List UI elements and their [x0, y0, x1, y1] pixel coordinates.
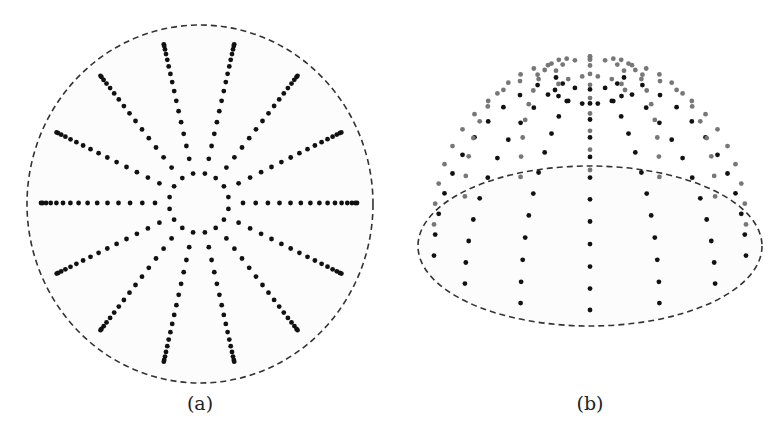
spoke-dot: [184, 144, 189, 149]
spoke-dot: [298, 201, 303, 206]
dome-front-dot: [588, 219, 593, 224]
spoke-dot: [39, 201, 44, 206]
dome-front-dot: [495, 156, 500, 161]
spoke-dot: [176, 292, 181, 297]
dome-back-dot: [554, 68, 559, 73]
spoke-dot: [168, 330, 173, 335]
dome-front-dot: [644, 105, 649, 110]
spoke-dot: [269, 165, 274, 170]
dome-back-dot: [495, 91, 500, 96]
spoke-dot: [225, 71, 230, 76]
dome-front-dot: [652, 235, 657, 240]
dome-point-distribution-figure: [0, 0, 779, 427]
spoke-dot: [305, 254, 310, 259]
dome-front-dot: [588, 155, 593, 160]
dome-back-dot: [649, 102, 654, 107]
panel-b-dome-view: [418, 54, 762, 326]
spoke-dot: [215, 120, 220, 125]
spoke-dot: [187, 245, 192, 250]
spoke-dot: [240, 145, 245, 150]
spoke-dot: [124, 165, 129, 170]
spoke-dot: [259, 231, 264, 236]
spoke-dot: [217, 292, 222, 297]
spoke-dot: [153, 201, 158, 206]
spoke-dot: [116, 304, 121, 309]
spoke-dot: [165, 344, 170, 349]
dome-front-dot: [603, 86, 608, 91]
dome-back-dot: [611, 56, 616, 61]
dome-back-dot: [486, 99, 491, 104]
dome-front-dot: [432, 253, 437, 258]
dome-back-dot: [535, 72, 540, 77]
dome-back-dot: [603, 58, 608, 63]
dome-back-dot: [450, 144, 455, 149]
dome-front-dot: [658, 93, 663, 98]
dome-back-dot: [739, 181, 744, 186]
dome-back-dot: [690, 104, 695, 109]
dome-back-dot: [588, 111, 593, 116]
spoke-dot: [61, 201, 66, 206]
dome-back-dot: [506, 80, 511, 85]
spoke-dot: [63, 134, 68, 139]
dome-front-dot: [588, 308, 593, 313]
spoke-dot: [63, 267, 68, 272]
dome-back-dot: [674, 88, 679, 93]
spoke-dot: [212, 131, 217, 136]
dome-back-dot: [712, 174, 717, 179]
spoke-dot: [166, 337, 171, 342]
dome-front-dot: [622, 75, 627, 80]
spoke-dot: [133, 283, 138, 288]
spoke-dot: [232, 359, 237, 364]
spoke-dot: [122, 104, 127, 109]
dome-back-dot: [703, 112, 708, 117]
dome-back-dot: [657, 154, 662, 159]
spoke-dot: [221, 89, 226, 94]
spoke-dot: [164, 52, 169, 57]
spoke-dot: [232, 155, 237, 160]
inner-ring-dot: [167, 195, 172, 200]
dome-front-dot: [588, 242, 593, 247]
spoke-dot: [297, 151, 302, 156]
spoke-dot: [154, 256, 159, 261]
spoke-dot: [236, 181, 241, 186]
spoke-dot: [236, 220, 241, 225]
dome-front-dot: [655, 257, 660, 262]
dome-front-dot: [536, 170, 541, 175]
spoke-dot: [127, 290, 132, 295]
dome-front-dot: [518, 120, 523, 125]
spoke-dot: [295, 73, 300, 78]
spoke-dot: [215, 281, 220, 286]
inner-ring-dot: [191, 230, 196, 235]
spoke-dot: [181, 131, 186, 136]
spoke-dot: [288, 155, 293, 160]
inner-ring-dot: [203, 171, 208, 176]
dome-front-dot: [486, 119, 491, 124]
spoke-dot: [127, 111, 132, 116]
apex-ring-dot: [609, 77, 614, 82]
dome-back-dot: [704, 136, 709, 141]
spoke-dot: [187, 156, 192, 161]
spoke-dot: [170, 322, 175, 327]
spoke-dot: [330, 134, 335, 139]
spoke-dot: [212, 270, 217, 275]
spoke-dot: [223, 80, 228, 85]
spoke-dot: [260, 283, 265, 288]
spoke-dot: [105, 155, 110, 160]
spoke-dot: [308, 201, 313, 206]
dome-front-dot: [436, 211, 441, 216]
dome-back-dot: [644, 88, 649, 93]
apex-ring-dot: [556, 82, 561, 87]
spoke-dot: [179, 281, 184, 286]
dome-front-dot: [739, 211, 744, 216]
spoke-dot: [288, 201, 293, 206]
dome-front-dot: [501, 105, 506, 110]
inner-ring-dot: [172, 217, 177, 222]
dome-front-dot: [640, 83, 645, 88]
dome-front-dot: [690, 175, 695, 180]
apex-ring-dot: [556, 94, 561, 99]
inner-ring-dot: [226, 195, 231, 200]
dome-back-dot: [542, 68, 547, 73]
spoke-dot: [181, 270, 186, 275]
dome-back-dot: [564, 56, 569, 61]
spoke-dot: [333, 201, 338, 206]
